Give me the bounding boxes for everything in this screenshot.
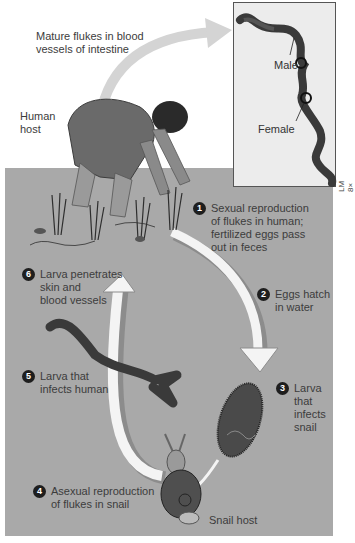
step-2-text: Eggs hatch in water <box>275 288 330 314</box>
male-label: Male <box>274 59 298 71</box>
rice-plants <box>10 185 200 245</box>
step-1: 1 Sexual reproduction of flukes in human… <box>193 202 309 254</box>
female-label: Female <box>258 123 295 135</box>
step-3-text: Larva that infects snail <box>294 382 326 434</box>
snail-illustration <box>155 432 215 527</box>
step-6: 6 Larva penetrates skin and blood vessel… <box>22 268 123 307</box>
male-female-flukes-image <box>234 3 335 186</box>
step-2: 2 Eggs hatch in water <box>257 288 330 314</box>
step-1-badge: 1 <box>193 202 206 215</box>
step-5: 5 Larva that infects human <box>22 370 108 396</box>
arrow-head-micrograph <box>205 18 232 48</box>
step-5-badge: 5 <box>22 370 35 383</box>
step-6-text: Larva penetrates skin and blood vessels <box>40 268 123 307</box>
step-2-badge: 2 <box>257 288 270 301</box>
magnification-label: LM 8× <box>337 181 355 192</box>
arrow-head-eggs <box>240 348 278 372</box>
snail-host-label: Snail host <box>209 514 257 527</box>
human-host-label: Human host <box>20 110 55 136</box>
snail-larva-illustration <box>215 375 265 465</box>
step-4-badge: 4 <box>33 485 46 498</box>
step-3: 3 Larva that infects snail <box>276 382 326 434</box>
step-6-badge: 6 <box>22 268 35 281</box>
step-5-text: Larva that infects human <box>40 370 108 396</box>
step-1-text: Sexual reproduction of flukes in human; … <box>211 202 309 254</box>
mature-flukes-label: Mature flukes in blood vessels of intest… <box>36 30 144 56</box>
step-3-badge: 3 <box>276 382 289 395</box>
step-4: 4 Asexual reproduction of flukes in snai… <box>33 485 154 511</box>
step-4-text: Asexual reproduction of flukes in snail <box>51 485 154 511</box>
fluke-micrograph: Male Female <box>233 2 336 187</box>
